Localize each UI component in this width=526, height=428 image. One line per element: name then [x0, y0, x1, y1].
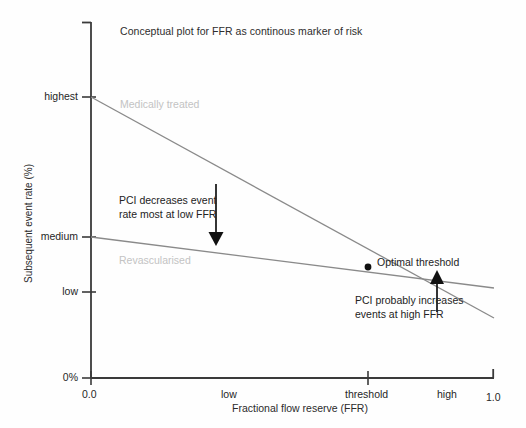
series-label-medically-treated: Medically treated — [120, 98, 199, 111]
x-axis-title: Fractional flow reserve (FFR) — [232, 402, 368, 415]
y-tick-label-medium: medium — [20, 230, 78, 243]
x-tick-label-high: high — [437, 388, 457, 401]
chart-figure: Conceptual plot for FFR as continous mar… — [0, 0, 526, 428]
x-tick-label-threshold: threshold — [345, 388, 388, 401]
x-tick-label-low: low — [221, 388, 237, 401]
plot-canvas — [0, 0, 526, 428]
annotation-pci-increases-line1: PCI probably increases — [355, 294, 464, 308]
y-tick-label-highest: highest — [20, 90, 78, 103]
annotation-pci-increases-line2: events at high FFR — [355, 308, 464, 322]
chart-title: Conceptual plot for FFR as continous mar… — [120, 25, 362, 38]
annotation-pci-decreases: PCI decreases event rate most at low FFR — [119, 194, 216, 221]
pci-increases-arrow-head — [430, 270, 444, 284]
y-tick-label-zero: 0% — [20, 371, 78, 384]
x-tick-label-one: 1.0 — [486, 391, 501, 404]
annotation-pci-decreases-line2: rate most at low FFR — [119, 208, 216, 222]
annotation-optimal-threshold: Optimal threshold — [377, 256, 459, 269]
series-label-revascularised: Revascularised — [119, 254, 191, 267]
optimal-threshold-marker-dot — [365, 264, 372, 271]
x-tick-label-zero: 0.0 — [82, 388, 97, 401]
y-axis-title: Subsequent event rate (%) — [22, 164, 35, 283]
y-tick-label-low: low — [20, 285, 78, 298]
pci-decreases-arrow-head — [209, 232, 224, 246]
annotation-pci-decreases-line1: PCI decreases event — [119, 194, 216, 208]
annotation-pci-increases: PCI probably increases events at high FF… — [355, 294, 464, 321]
